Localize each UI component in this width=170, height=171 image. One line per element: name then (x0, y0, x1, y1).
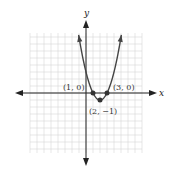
vertex-point (98, 98, 103, 103)
point-1-0 (91, 91, 96, 96)
graph: y x (1, 0) (3, 0) (2, −1) (0, 0, 170, 171)
curve-left-arrow-icon (77, 35, 82, 42)
x-axis-left-arrow-icon (15, 90, 23, 96)
x-axis-label: x (159, 88, 164, 98)
y-axis-up-arrow-icon (83, 20, 89, 28)
curve-right-arrow-icon (118, 35, 123, 42)
point-3-0 (105, 91, 110, 96)
point-3-0-label: (3, 0) (113, 83, 135, 92)
vertex-label: (2, −1) (89, 107, 117, 116)
x-axis-right-arrow-icon (149, 90, 157, 96)
y-axis-down-arrow-icon (83, 158, 89, 166)
point-1-0-label: (1, 0) (63, 83, 85, 92)
y-axis-label: y (83, 8, 90, 18)
